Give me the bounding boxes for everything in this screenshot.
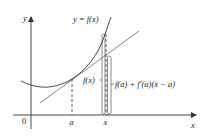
tangent-value-bracket [108, 56, 112, 114]
curve-label: y = f(x) [72, 14, 99, 24]
linear-approximation-diagram: y 0 a x x y = f(x) f(x) f(a) + f′(a)(x −… [0, 0, 207, 137]
tangent-value-label: f(a) + f′(a)(x − a) [115, 79, 175, 89]
function-curve [21, 17, 111, 87]
tangent-line [40, 31, 139, 103]
tick-label-a: a [70, 117, 74, 127]
tick-label-x: x [103, 117, 108, 127]
fx-label: f(x) [83, 75, 95, 85]
fx-bracket [102, 34, 105, 114]
origin-label: 0 [22, 116, 26, 126]
y-axis-label: y [22, 13, 27, 23]
x-axis-label: x [190, 120, 195, 130]
